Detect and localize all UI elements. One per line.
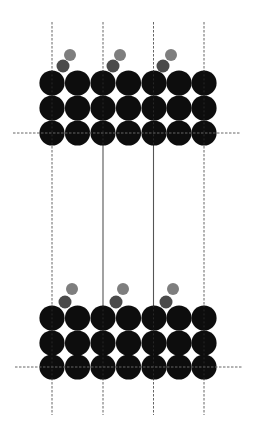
substrate-atom: [141, 95, 166, 120]
adsorbate-lower-atom: [59, 296, 72, 309]
substrate-atom: [141, 70, 166, 95]
adsorbate-upper-atom: [66, 283, 78, 295]
adsorbate-lower-atom: [107, 60, 120, 73]
adsorbate-lower-atom: [160, 296, 173, 309]
substrate-atom: [65, 95, 90, 120]
substrate-atom: [116, 305, 141, 330]
substrate-atom: [166, 95, 191, 120]
substrate-atom: [65, 330, 90, 355]
substrate-atom: [116, 95, 141, 120]
substrate-atom: [65, 70, 90, 95]
substrate-atom: [116, 70, 141, 95]
substrate-atom: [141, 305, 166, 330]
adsorbate-upper-atom: [114, 49, 126, 61]
substrate-atom: [141, 330, 166, 355]
substrate-atom: [166, 330, 191, 355]
adsorbate-lower-atom: [157, 60, 170, 73]
substrate-atom: [166, 305, 191, 330]
atom-layers: [39, 49, 216, 380]
substrate-atom: [116, 330, 141, 355]
adsorbate-upper-atom: [117, 283, 129, 295]
slab-diagram: [0, 0, 255, 432]
substrate-atom: [166, 70, 191, 95]
adsorbate-lower-atom: [110, 296, 123, 309]
adsorbate-upper-atom: [165, 49, 177, 61]
adsorbate-upper-atom: [64, 49, 76, 61]
substrate-atom: [65, 305, 90, 330]
adsorbate-upper-atom: [167, 283, 179, 295]
adsorbate-lower-atom: [57, 60, 70, 73]
diagram-canvas: [0, 0, 255, 432]
